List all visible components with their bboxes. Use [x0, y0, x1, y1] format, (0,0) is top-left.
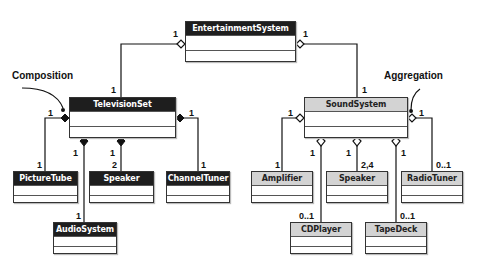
aggregation-diamond-icon: [392, 137, 400, 146]
class-audio-system[interactable]: AudioSystem: [53, 222, 117, 254]
class-television-set[interactable]: TelevisionSet: [69, 97, 176, 138]
class-name: RadioTuner: [402, 172, 462, 185]
connector-tv-picturetube: [45, 118, 62, 171]
multiplicity-label: 1: [362, 85, 367, 95]
multiplicity-label: 1: [201, 160, 206, 170]
attributes-section: [305, 111, 407, 126]
class-name: TelevisionSet: [70, 98, 175, 111]
composition-diamond-icon: [80, 137, 88, 146]
composition-diamond-icon: [176, 114, 184, 122]
class-name: AudioSystem: [54, 223, 116, 236]
aggregation-diamond-icon: [317, 137, 325, 146]
class-name: EntertainmentSystem: [186, 22, 295, 35]
multiplicity-label: 0..1: [400, 211, 415, 221]
class-name: Speaker: [327, 172, 387, 185]
attributes-section: [167, 185, 229, 195]
attributes-section: [186, 35, 295, 50]
connector-tv-channeltuner: [184, 118, 198, 171]
operations-section: [14, 195, 77, 203]
operations-section: [70, 126, 175, 138]
class-channel-tuner[interactable]: ChannelTuner: [166, 171, 230, 203]
operations-section: [305, 126, 407, 138]
connector-ss-amplifier: [282, 118, 297, 171]
class-entertainment-system[interactable]: EntertainmentSystem: [185, 21, 296, 62]
operations-section: [252, 195, 312, 203]
class-name: TapeDeck: [366, 223, 426, 236]
composition-diamond-icon: [117, 137, 125, 146]
aggregation-diamond-icon: [296, 40, 304, 48]
class-radio-tuner[interactable]: RadioTuner: [401, 171, 463, 203]
attributes-section: [70, 111, 175, 126]
connector-es-ss: [303, 44, 357, 97]
class-name: ChannelTuner: [167, 172, 229, 185]
attributes-section: [366, 236, 426, 246]
aggregation-diamond-icon: [177, 40, 185, 48]
attributes-section: [327, 185, 387, 195]
class-name: Amplifier: [252, 172, 312, 185]
multiplicity-label: 1: [189, 108, 194, 118]
aggregation-annotation: Aggregation: [384, 70, 443, 81]
attributes-section: [90, 185, 153, 195]
class-picture-tube[interactable]: PictureTube: [13, 171, 78, 203]
multiplicity-label: 2,4: [361, 160, 374, 170]
attributes-section: [402, 185, 462, 195]
operations-section: [327, 195, 387, 203]
class-name: Speaker: [90, 172, 153, 185]
multiplicity-label: 1: [111, 85, 116, 95]
class-cd-player[interactable]: CDPlayer: [290, 222, 352, 254]
operations-section: [366, 246, 426, 254]
composition-dot: [61, 108, 65, 112]
class-tape-deck[interactable]: TapeDeck: [365, 222, 427, 254]
class-tv-speaker[interactable]: Speaker: [89, 171, 154, 203]
operations-section: [186, 50, 295, 62]
composition-leader: [22, 88, 63, 108]
operations-section: [402, 195, 462, 203]
aggregation-leader: [411, 89, 420, 110]
class-sound-speaker[interactable]: Speaker: [326, 171, 388, 203]
class-amplifier[interactable]: Amplifier: [251, 171, 313, 203]
multiplicity-label: 1: [310, 148, 315, 158]
class-name: CDPlayer: [291, 223, 351, 236]
multiplicity-label: 1: [173, 29, 178, 39]
multiplicity-label: 1: [303, 29, 308, 39]
aggregation-diamond-icon: [353, 137, 361, 146]
class-name: SoundSystem: [305, 98, 407, 111]
operations-section: [90, 195, 153, 203]
composition-annotation: Composition: [12, 70, 73, 81]
aggregation-diamond-icon: [296, 114, 304, 122]
class-sound-system[interactable]: SoundSystem: [304, 97, 408, 138]
multiplicity-label: 1: [48, 108, 53, 118]
multiplicity-label: 2: [112, 160, 117, 170]
multiplicity-label: 1: [37, 160, 42, 170]
multiplicity-label: 1: [275, 160, 280, 170]
multiplicity-label: 1: [288, 108, 293, 118]
attributes-section: [252, 185, 312, 195]
multiplicity-label: 1: [346, 148, 351, 158]
aggregation-dot: [409, 109, 413, 113]
multiplicity-label: 1: [76, 211, 81, 221]
composition-diamond-icon: [61, 114, 69, 122]
multiplicity-label: 1: [401, 148, 406, 158]
operations-section: [167, 195, 229, 203]
multiplicity-label: 0..1: [436, 160, 451, 170]
operations-section: [291, 246, 351, 254]
multiplicity-label: 1: [73, 148, 78, 158]
aggregation-diamond-icon: [408, 114, 416, 122]
attributes-section: [54, 236, 116, 246]
multiplicity-label: 1: [110, 148, 115, 158]
operations-section: [54, 246, 116, 254]
multiplicity-label: 1: [419, 108, 424, 118]
multiplicity-label: 0..1: [299, 211, 314, 221]
attributes-section: [14, 185, 77, 195]
connector-es-tv: [121, 44, 178, 97]
connector-ss-radiotuner: [416, 118, 432, 171]
class-name: PictureTube: [14, 172, 77, 185]
attributes-section: [291, 236, 351, 246]
